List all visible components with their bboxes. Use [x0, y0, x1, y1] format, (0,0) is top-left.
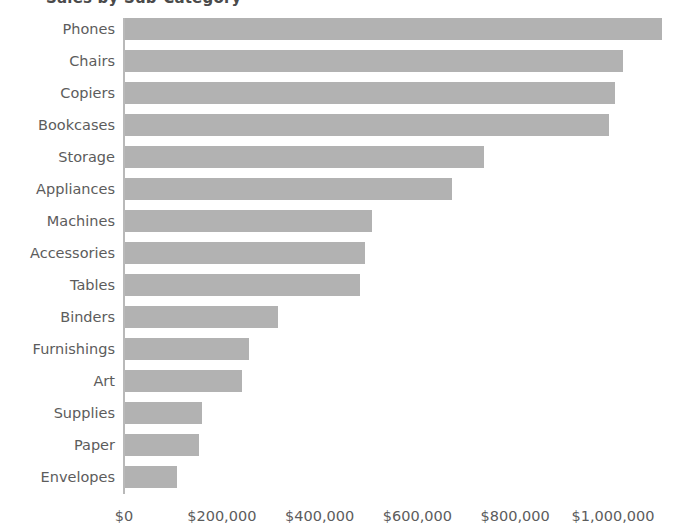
bar-row: Bookcases	[124, 114, 673, 146]
bar-rows: PhonesChairsCopiersBookcasesStorageAppli…	[124, 18, 673, 498]
bar[interactable]	[125, 434, 199, 456]
bar-row: Copiers	[124, 82, 673, 114]
category-label: Bookcases	[0, 114, 115, 136]
category-label: Tables	[0, 274, 115, 296]
category-label: Accessories	[0, 242, 115, 264]
category-label: Envelopes	[0, 466, 115, 488]
bar-row: Paper	[124, 434, 673, 466]
bar-row: Appliances	[124, 178, 673, 210]
bar[interactable]	[125, 50, 623, 72]
category-label: Chairs	[0, 50, 115, 72]
bar-row: Phones	[124, 18, 673, 50]
bar-row: Tables	[124, 274, 673, 306]
category-label: Machines	[0, 210, 115, 232]
bar-row: Machines	[124, 210, 673, 242]
bar[interactable]	[125, 146, 484, 168]
category-label: Supplies	[0, 402, 115, 424]
bar[interactable]	[125, 210, 372, 232]
category-label: Copiers	[0, 82, 115, 104]
bar[interactable]	[125, 370, 242, 392]
bar[interactable]	[125, 114, 609, 136]
x-tick-label: $200,000	[187, 508, 256, 524]
category-label: Art	[0, 370, 115, 392]
category-label: Paper	[0, 434, 115, 456]
bar-row: Supplies	[124, 402, 673, 434]
bar[interactable]	[125, 178, 452, 200]
bar[interactable]	[125, 306, 278, 328]
bar-row: Chairs	[124, 50, 673, 82]
bar[interactable]	[125, 402, 202, 424]
bar[interactable]	[125, 274, 360, 296]
bar-row: Envelopes	[124, 466, 673, 498]
x-tick-label: $1,000,000	[571, 508, 654, 524]
bar[interactable]	[125, 466, 177, 488]
bar-row: Binders	[124, 306, 673, 338]
x-axis: $0$200,000$400,000$600,000$800,000$1,000…	[124, 496, 673, 532]
category-label: Furnishings	[0, 338, 115, 360]
bar-row: Furnishings	[124, 338, 673, 370]
bar-row: Accessories	[124, 242, 673, 274]
bar[interactable]	[125, 338, 249, 360]
bar[interactable]	[125, 242, 365, 264]
x-tick-label: $400,000	[285, 508, 354, 524]
x-tick-label: $600,000	[383, 508, 452, 524]
bar[interactable]	[125, 82, 615, 104]
x-tick-label: $0	[115, 508, 133, 524]
category-label: Appliances	[0, 178, 115, 200]
bar-chart: Sales by Sub-Category PhonesChairsCopier…	[0, 0, 673, 532]
bar[interactable]	[125, 18, 662, 40]
x-tick-label: $800,000	[481, 508, 550, 524]
chart-title: Sales by Sub-Category	[46, 0, 241, 7]
bar-row: Storage	[124, 146, 673, 178]
category-label: Phones	[0, 18, 115, 40]
category-label: Storage	[0, 146, 115, 168]
bar-row: Art	[124, 370, 673, 402]
category-label: Binders	[0, 306, 115, 328]
plot-area: PhonesChairsCopiersBookcasesStorageAppli…	[124, 18, 673, 496]
